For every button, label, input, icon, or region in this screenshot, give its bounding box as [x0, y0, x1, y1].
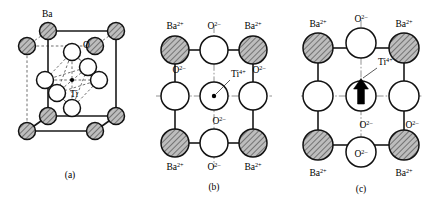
oxygen-atom	[64, 44, 81, 61]
label-o-a: O	[83, 40, 90, 50]
oxygen-atom	[64, 100, 81, 117]
label-ba-a: Ba	[42, 9, 53, 19]
barium-ion-bottom-right	[239, 129, 267, 157]
titanium-atom	[70, 78, 74, 82]
label-o-top-b: O2–	[207, 20, 221, 31]
label-ba-bottom-left-c: Ba2+	[309, 167, 327, 178]
label-ba-top-right-c: Ba2+	[395, 18, 413, 29]
label-ba-bottom-right-c: Ba2+	[395, 167, 413, 178]
label-ba-bottom-right-b: Ba2+	[244, 161, 262, 172]
label-ba-top-left-b: Ba2+	[166, 20, 184, 31]
oxygen-ion-bottom	[200, 129, 228, 157]
label-o-bottom-b: O2–	[207, 161, 221, 172]
panel-a-drawing: Ba O Ti (a)	[0, 0, 140, 205]
label-o-inner-b: O2–	[212, 115, 226, 126]
label-ti-b: Ti4+	[231, 68, 246, 79]
oxygen-ion-right	[389, 81, 419, 111]
label-o-right-b: O2–	[252, 64, 266, 75]
oxygen-atom	[80, 59, 97, 76]
oxygen-ion-left	[161, 82, 189, 110]
barium-ion-top-right	[239, 36, 267, 64]
label-o-left-b: O2–	[172, 64, 186, 75]
oxygen-atom	[49, 85, 66, 102]
barium-atom	[19, 123, 36, 140]
label-ti-a: Ti	[70, 89, 78, 99]
label-ba-top-left-c: Ba2+	[309, 18, 327, 29]
barium-ion-top-right	[389, 33, 419, 63]
panel-b-drawing: Ba2+ Ba2+ Ba2+ Ba2+ O2– O2– O2– O2– O2– …	[140, 0, 285, 205]
barium-ion-top-left	[161, 36, 189, 64]
panel-a-unit-cell: Ba O Ti (a)	[0, 0, 140, 205]
figure-bottom-caption	[0, 192, 438, 205]
oxygen-ion-right	[239, 82, 267, 110]
oxygen-ion-top	[346, 28, 376, 58]
label-ba-bottom-left-b: Ba2+	[166, 161, 184, 172]
barium-atom	[108, 23, 125, 40]
oxygen-ion-left	[303, 81, 333, 111]
titanium-center-dot	[212, 94, 216, 98]
oxygen-atom	[37, 72, 54, 89]
caption-a: (a)	[65, 170, 76, 181]
barium-ion-bottom-left	[161, 129, 189, 157]
figure-container: Ba O Ti (a)	[0, 0, 438, 205]
barium-atom	[19, 38, 36, 55]
panel-c-drawing: Ba2+ Ba2+ Ba2+ Ba2+ O2– O2– O2– O2– Ti4+…	[285, 0, 438, 205]
label-o-inner-c: O2–	[359, 119, 373, 130]
barium-atom	[108, 108, 125, 125]
barium-atom	[40, 23, 57, 40]
barium-atom	[87, 123, 104, 140]
titanium-leader-line	[363, 68, 377, 78]
label-o-right-c: O2–	[405, 119, 419, 130]
label-ba-top-right-b: Ba2+	[244, 20, 262, 31]
barium-ion-top-left	[303, 33, 333, 63]
oxygen-ion-top	[200, 36, 228, 64]
barium-atom	[40, 108, 57, 125]
label-o-top-c: O2–	[354, 13, 368, 24]
panel-b-cubic: Ba2+ Ba2+ Ba2+ Ba2+ O2– O2– O2– O2– O2– …	[140, 0, 285, 205]
panel-c-tetragonal: Ba2+ Ba2+ Ba2+ Ba2+ O2– O2– O2– O2– Ti4+…	[285, 0, 438, 205]
label-ti-c: Ti4+	[378, 56, 393, 67]
barium-ion-bottom-right	[389, 130, 419, 160]
barium-ion-bottom-left	[303, 130, 333, 160]
